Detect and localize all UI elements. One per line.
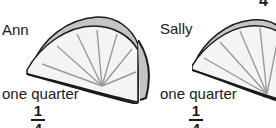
- page-number-digit: 4: [259, 0, 268, 10]
- fraction-numerator: 1: [189, 104, 203, 118]
- fraction-numerator: 1: [31, 104, 45, 118]
- fraction-denominator: 4: [189, 122, 203, 128]
- fraction-sally: 1 4: [189, 104, 203, 128]
- fraction-word-label-ann: one quarter: [2, 85, 79, 102]
- fraction-ann: 1 4: [31, 104, 45, 128]
- person-name-sally: Sally: [160, 20, 193, 37]
- fraction-denominator: 4: [31, 122, 45, 128]
- fraction-word-label-sally: one quarter: [160, 85, 237, 102]
- wedge-edge-fragment: [138, 40, 158, 102]
